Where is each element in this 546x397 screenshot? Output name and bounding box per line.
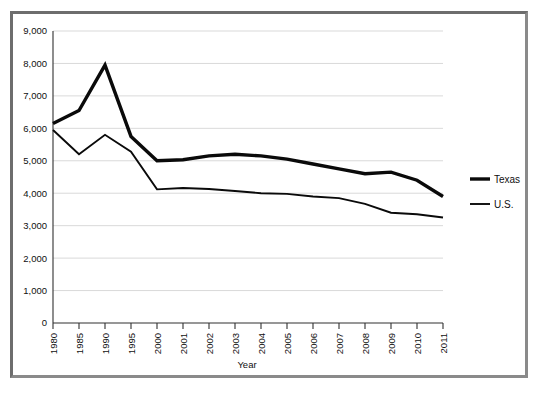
y-tick-label: 1,000 [23,285,47,296]
legend-label: U.S. [494,199,513,210]
x-tick-label: 2006 [308,333,319,354]
x-tick-label: 2004 [256,333,267,354]
x-tick-label: 2005 [282,333,293,354]
data-series [53,65,443,217]
y-tick-label: 4,000 [23,188,47,199]
gridlines [53,31,443,291]
y-tick-label: 6,000 [23,123,47,134]
x-tick-label: 1995 [126,333,137,354]
series-line-texas [53,65,443,196]
x-axis-title-text: Year [237,359,256,370]
y-axis-tick-labels: 01,0002,0003,0004,0005,0006,0007,0008,00… [23,25,47,328]
x-tick-label: 2011 [438,333,449,353]
y-tick-label: 2,000 [23,253,47,264]
x-tick-label: 2007 [334,333,345,354]
line-chart: 01,0002,0003,0004,0005,0006,0007,0008,00… [0,0,546,397]
y-tick-label: 7,000 [23,90,47,101]
y-tick-label: 3,000 [23,220,47,231]
x-tick-label: 2008 [360,333,371,354]
x-axis-ticks [53,323,443,329]
x-tick-label: 2010 [412,333,423,354]
chart-legend: TexasU.S. [470,174,520,210]
x-tick-label: 1990 [100,333,111,354]
y-tick-label: 0 [42,317,47,328]
x-tick-label: 2000 [152,333,163,354]
x-tick-label: 2009 [386,333,397,354]
y-tick-label: 5,000 [23,155,47,166]
x-tick-label: 1985 [74,333,85,354]
x-axis-tick-labels: 1980198519901995200020012002200320042005… [48,333,449,354]
legend-label: Texas [494,174,520,185]
x-tick-label: 2002 [204,333,215,354]
x-tick-label: 2001 [178,333,189,354]
y-tick-label: 8,000 [23,58,47,69]
x-tick-label: 2003 [230,333,241,354]
y-tick-label: 9,000 [23,25,47,36]
axes [53,31,443,323]
x-axis-title: Year [237,359,256,370]
x-tick-label: 1980 [48,333,59,354]
